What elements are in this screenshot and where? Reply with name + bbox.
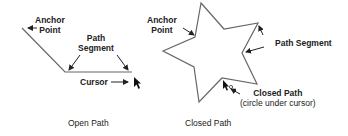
closed-anchor-label-2: Point: [147, 25, 177, 35]
closed-anchor-label: Anchor Point: [147, 15, 177, 35]
close-circle-icon: [229, 85, 232, 88]
segment-arrow-top: [259, 26, 263, 35]
closed-path-caption: Closed Path: [185, 118, 231, 128]
closed-path-label-1: Closed Path: [240, 88, 316, 98]
segment-arrow-right: [117, 55, 128, 70]
open-segment-label: Path Segment: [78, 33, 114, 53]
open-segment-label-2: Segment: [78, 43, 114, 53]
open-path-caption: Open Path: [68, 118, 109, 128]
segment-arrow-mid: [246, 47, 264, 52]
open-anchor-label-2: Point: [35, 25, 65, 35]
closed-arrow: [231, 89, 240, 94]
closed-path-label: Closed Path (circle under cursor): [240, 88, 316, 108]
cursor-icon-closed: [223, 80, 229, 91]
open-segment-label-1: Path: [78, 33, 114, 43]
closed-path-label-2: (circle under cursor): [240, 98, 316, 108]
cursor-label: Cursor: [80, 77, 108, 87]
closed-segment-label: Path Segment: [275, 38, 332, 48]
cursor-icon: [134, 77, 141, 89]
closed-anchor-label-1: Anchor: [147, 15, 177, 25]
open-anchor-label: Anchor Point: [35, 15, 65, 35]
segment-arrow-left: [69, 55, 80, 70]
anchor-arrow-closed: [183, 28, 194, 35]
open-anchor-label-1: Anchor: [35, 15, 65, 25]
